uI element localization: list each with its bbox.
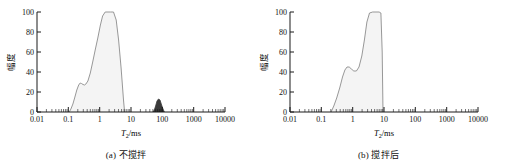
y-tick-label: 80 bbox=[279, 28, 287, 37]
x-axis-title-unit: /ms bbox=[382, 128, 394, 138]
chart-b-fill-layer bbox=[331, 12, 383, 112]
x-axis-title-b: T2/ms bbox=[374, 128, 394, 139]
x-tick-label: 1000 bbox=[439, 115, 455, 124]
series-main-peak-area-b bbox=[331, 12, 383, 112]
y-axis-title-a: 幅度 bbox=[6, 53, 16, 71]
x-tick-label: 100 bbox=[156, 115, 168, 124]
y-tick-label: 20 bbox=[26, 88, 34, 97]
y-tick-label: 20 bbox=[279, 88, 287, 97]
x-axis-title-unit: /ms bbox=[129, 128, 141, 138]
chart-a-svg: 0 20 40 60 80 100 bbox=[0, 0, 252, 140]
chart-a-x-tick-labels: 0.01 0.1 1 10 100 1000 10000 bbox=[30, 115, 235, 124]
figure-container: 0 20 40 60 80 100 bbox=[0, 0, 505, 165]
y-tick-label: 100 bbox=[275, 8, 287, 17]
chart-b-y-ticks: 0 20 40 60 80 100 bbox=[275, 8, 294, 117]
chart-b-x-tick-labels: 0.01 0.1 1 10 100 1000 10000 bbox=[283, 115, 488, 124]
x-tick-label: 10 bbox=[380, 115, 388, 124]
panel-a-caption: (a) 不搅拌 bbox=[0, 148, 252, 161]
y-tick-label: 80 bbox=[26, 28, 34, 37]
x-axis-title-a: T2/ms bbox=[121, 128, 141, 139]
x-tick-label: 10000 bbox=[215, 115, 235, 124]
x-tick-label: 0.1 bbox=[316, 115, 326, 124]
x-tick-label: 10 bbox=[127, 115, 135, 124]
y-tick-label: 60 bbox=[26, 48, 34, 57]
x-tick-label: 0.1 bbox=[63, 115, 73, 124]
chart-a-axes bbox=[37, 12, 225, 112]
y-tick-label: 40 bbox=[26, 68, 34, 77]
y-tick-label: 100 bbox=[22, 8, 34, 17]
chart-panel-a: 0 20 40 60 80 100 bbox=[0, 0, 252, 165]
x-tick-label: 1 bbox=[98, 115, 102, 124]
x-tick-label: 1000 bbox=[186, 115, 202, 124]
x-tick-label: 1 bbox=[351, 115, 355, 124]
x-tick-label: 100 bbox=[409, 115, 421, 124]
chart-b-svg: 0 20 40 60 80 100 bbox=[252, 0, 505, 140]
chart-panel-b: 0 20 40 60 80 100 bbox=[252, 0, 505, 165]
x-tick-label: 0.01 bbox=[283, 115, 297, 124]
x-tick-label: 0.01 bbox=[30, 115, 44, 124]
y-axis-title-b: 幅度 bbox=[259, 53, 269, 71]
panel-b-caption: (b) 搅拌后 bbox=[252, 148, 505, 161]
series-main-peak-area-a bbox=[69, 12, 124, 112]
y-tick-label: 40 bbox=[279, 68, 287, 77]
chart-b-axes bbox=[290, 12, 478, 112]
y-tick-label: 60 bbox=[279, 48, 287, 57]
x-tick-label: 10000 bbox=[468, 115, 488, 124]
chart-a-y-ticks: 0 20 40 60 80 100 bbox=[22, 8, 41, 117]
